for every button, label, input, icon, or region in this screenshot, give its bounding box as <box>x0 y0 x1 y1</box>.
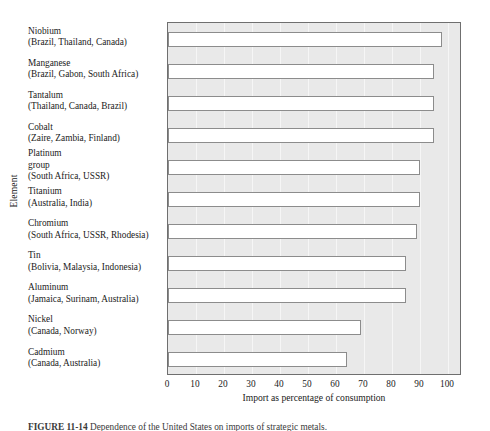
figure-caption-text: Dependence of the United States on impor… <box>90 422 327 431</box>
bar <box>168 192 420 207</box>
category-label: Tin(Bolivia, Malaysia, Indonesia) <box>28 250 165 273</box>
category-label-element: Tin <box>28 250 165 261</box>
bar <box>168 32 442 47</box>
category-label-element: Niobium <box>28 26 165 37</box>
category-label: Manganese(Brazil, Gabon, South Africa) <box>28 58 165 81</box>
category-label-element-cont: group <box>28 160 165 171</box>
category-label-sources: (South Africa, USSR) <box>28 171 165 182</box>
figure-bar-chart: Element Niobium(Brazil, Thailand, Canada… <box>0 0 490 431</box>
figure-caption: FIGURE 11-14 Dependence of the United St… <box>28 421 468 431</box>
bar <box>168 320 361 335</box>
category-label-element: Tantalum <box>28 90 165 101</box>
bar <box>168 96 434 111</box>
category-label: Niobium(Brazil, Thailand, Canada) <box>28 26 165 49</box>
bar <box>168 288 406 303</box>
category-label-sources: (Bolivia, Malaysia, Indonesia) <box>28 262 165 273</box>
category-label-column: Niobium(Brazil, Thailand, Canada)Mangane… <box>28 22 165 375</box>
y-axis-title: Element <box>9 161 19 221</box>
category-label-element: Cobalt <box>28 122 165 133</box>
category-label-sources: (South Africa, USSR, Rhodesia) <box>28 230 165 241</box>
bar <box>168 256 406 271</box>
x-axis-title: Import as percentage of consumption <box>167 392 461 403</box>
category-label: Platinumgroup(South Africa, USSR) <box>28 148 165 182</box>
plot-area <box>167 22 461 375</box>
category-label: Tantalum(Thailand, Canada, Brazil) <box>28 90 165 113</box>
category-label-element: Cadmium <box>28 347 165 358</box>
category-label-element: Platinum <box>28 148 165 159</box>
category-label: Cobalt(Zaire, Zambia, Finland) <box>28 122 165 145</box>
bar <box>168 352 347 367</box>
category-label-sources: (Brazil, Thailand, Canada) <box>28 37 165 48</box>
bar <box>168 64 434 79</box>
bar <box>168 128 434 143</box>
category-label-sources: (Australia, India) <box>28 198 165 209</box>
category-label: Chromium(South Africa, USSR, Rhodesia) <box>28 218 165 241</box>
category-label-element: Aluminum <box>28 282 165 293</box>
gridline-vertical <box>448 23 449 374</box>
category-label-sources: (Jamaica, Surinam, Australia) <box>28 294 165 305</box>
category-label-element: Titanium <box>28 186 165 197</box>
bar <box>168 160 420 175</box>
category-label-element: Manganese <box>28 58 165 69</box>
category-label-sources: (Zaire, Zambia, Finland) <box>28 133 165 144</box>
category-label: Titanium(Australia, India) <box>28 186 165 209</box>
category-label-element: Nickel <box>28 314 165 325</box>
category-label-sources: (Canada, Australia) <box>28 358 165 369</box>
category-label-sources: (Thailand, Canada, Brazil) <box>28 101 165 112</box>
category-label: Aluminum(Jamaica, Surinam, Australia) <box>28 282 165 305</box>
category-label: Cadmium(Canada, Australia) <box>28 347 165 370</box>
category-label: Nickel(Canada, Norway) <box>28 314 165 337</box>
category-label-sources: (Canada, Norway) <box>28 326 165 337</box>
bar <box>168 224 417 239</box>
category-label-sources: (Brazil, Gabon, South Africa) <box>28 69 165 80</box>
figure-caption-label: FIGURE 11-14 <box>28 422 88 431</box>
category-label-element: Chromium <box>28 218 165 229</box>
x-axis-tick-label: 100 <box>427 379 467 389</box>
